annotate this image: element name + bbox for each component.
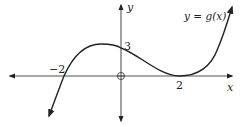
curve-label: y = g(x) <box>183 10 226 22</box>
x-axis-label: x <box>227 81 234 94</box>
curve-g <box>49 7 232 116</box>
tick-label-3: 3 <box>124 40 131 53</box>
tick-label-2: 2 <box>176 79 183 92</box>
tick-label-neg2: −2 <box>49 63 65 76</box>
graph-figure: y x −2 2 3 y = g(x) <box>0 0 242 127</box>
graph-svg: y x −2 2 3 y = g(x) <box>0 0 242 127</box>
y-axis-label: y <box>126 1 134 14</box>
